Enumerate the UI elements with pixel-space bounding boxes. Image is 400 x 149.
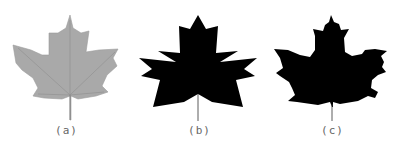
panel-a: (a) [0,0,133,149]
panel-c: (c) [266,0,399,149]
panel-b-caption: (b) [133,124,266,137]
panel-c-caption: (c) [266,124,399,137]
panel-a-caption: (a) [0,124,133,137]
panel-b: (b) [133,0,266,149]
